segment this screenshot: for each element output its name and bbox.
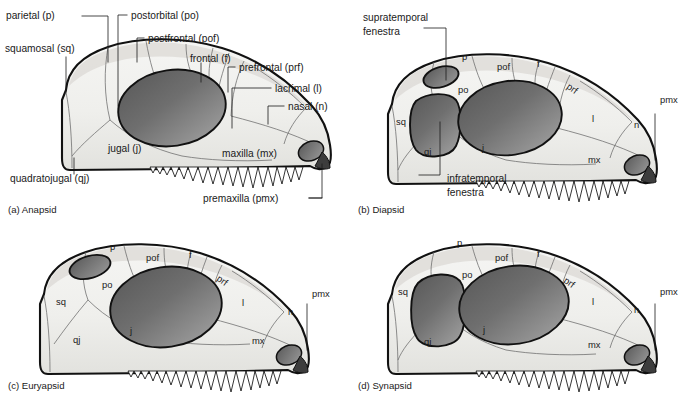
lateral-temporal-fenestra-d: [411, 274, 465, 346]
teeth-d: [476, 371, 629, 392]
callout-quadratojugal-a: quadratojugal (qj): [10, 173, 89, 184]
label-postfrontal-b: pof: [497, 61, 510, 72]
label-squamosal-b: sq: [396, 116, 406, 127]
label-maxilla-d: mx: [588, 339, 601, 350]
label-jugal-d: j: [482, 324, 485, 335]
callout-maxilla-a: maxilla (mx): [222, 148, 277, 159]
label-quadratojugal-c: qj: [73, 334, 80, 345]
label-postorbital-c: po: [102, 279, 112, 290]
teeth-c: [128, 371, 281, 392]
callout-infratemporal-fenestra-b: infratemporal: [447, 173, 506, 184]
label-parietal-d: p: [457, 237, 462, 248]
panel-b-diapsid: supratemporal fenestra infratemporal fen…: [358, 12, 678, 215]
label-postfrontal-c: pof: [146, 252, 159, 263]
figure-canvas: parietal (p) squamosal (sq) quadratojuga…: [0, 0, 695, 409]
label-lacrimal-b: l: [592, 113, 594, 124]
panel-caption-d: (d) Synapsid: [358, 380, 412, 391]
label-postorbital-d: po: [462, 269, 472, 280]
label-premaxilla-b: pmx: [660, 94, 678, 105]
label-postfrontal-d: pof: [495, 252, 508, 263]
teeth-b: [476, 181, 629, 202]
label-lacrimal-d: l: [592, 296, 594, 307]
callout-postfrontal-a: postfrontal (pof): [148, 33, 219, 44]
callout-frontal-a: frontal (f): [190, 53, 231, 64]
label-frontal-b: f: [537, 58, 540, 69]
label-nasal-b: n: [634, 119, 639, 130]
callout-parietal-a: parietal (p): [6, 10, 55, 21]
callout-premaxilla-a: premaxilla (pmx): [203, 193, 278, 204]
label-parietal-b: p: [462, 51, 467, 62]
callout-jugal-a: jugal (j): [107, 143, 141, 154]
callout-nasal-a: nasal (n): [288, 101, 328, 112]
label-premaxilla-d: pmx: [660, 286, 678, 297]
label-jugal-c: j: [129, 325, 132, 336]
panel-a-anapsid: parietal (p) squamosal (sq) quadratojuga…: [5, 10, 331, 215]
label-nasal-c: n: [288, 306, 293, 317]
label-quadratojugal-b: qj: [424, 146, 431, 157]
panel-caption-a: (a) Anapsid: [8, 204, 57, 215]
label-nasal-d: n: [634, 304, 639, 315]
panel-c-euryapsid: p pof f prf po sq qj j l n mx pmx (c) Eu…: [8, 241, 330, 392]
panel-caption-b: (b) Diapsid: [358, 204, 404, 215]
callout-infratemporal-fenestra-b-line2: fenestra: [447, 187, 484, 198]
label-premaxilla-c: pmx: [312, 288, 330, 299]
callout-postorbital-a: postorbital (po): [131, 10, 199, 21]
label-squamosal-d: sq: [398, 286, 408, 297]
label-jugal-b: j: [481, 142, 484, 153]
callout-squamosal-a: squamosal (sq): [5, 43, 75, 54]
infratemporal-fenestra-b: [410, 94, 461, 156]
callout-supratemporal-fenestra-b-line2: fenestra: [363, 26, 400, 37]
callout-prefrontal-a: prefrontal (prf): [239, 62, 304, 73]
teeth-a: [150, 167, 303, 188]
label-postorbital-b: po: [458, 84, 468, 95]
label-lacrimal-c: l: [242, 297, 244, 308]
skull-figure: parietal (p) squamosal (sq) quadratojuga…: [0, 0, 695, 409]
panel-d-synapsid: p pof f prf po sq qj j l n mx pmx (d) Sy…: [358, 237, 678, 392]
label-frontal-c: f: [189, 249, 192, 260]
label-maxilla-c: mx: [252, 335, 265, 346]
label-frontal-d: f: [537, 248, 540, 259]
label-parietal-c: p: [110, 241, 115, 252]
callout-supratemporal-fenestra-b: supratemporal: [363, 12, 428, 23]
label-squamosal-c: sq: [56, 296, 66, 307]
callout-lacrimal-a: lacrimal (l): [275, 83, 322, 94]
label-quadratojugal-d: qj: [424, 336, 431, 347]
label-maxilla-b: mx: [588, 154, 601, 165]
panel-caption-c: (c) Euryapsid: [8, 380, 65, 391]
